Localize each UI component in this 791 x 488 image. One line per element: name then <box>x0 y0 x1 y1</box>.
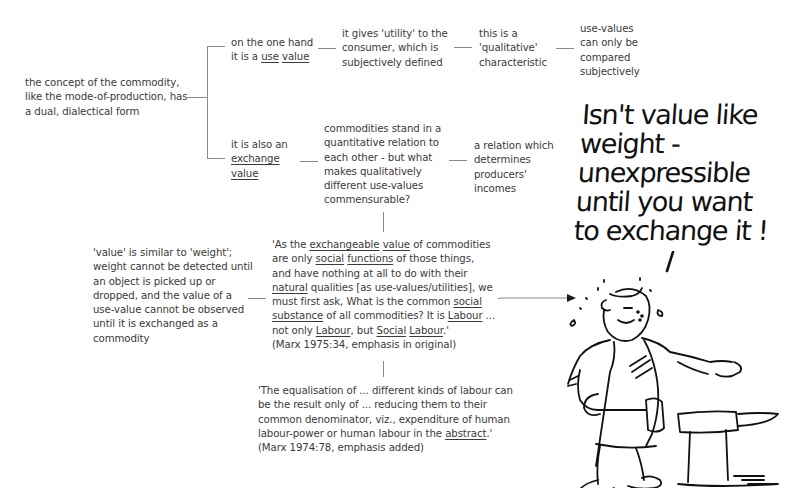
emphasised-term: Labour <box>316 325 351 336</box>
marx-quote-1-text: 'As the exchangeable value of commoditie… <box>272 238 496 338</box>
quantitative-text: commodities stand in a quantitative rela… <box>324 122 452 208</box>
incomes-node: a relation which determines producers' i… <box>474 139 556 196</box>
compared-text: use-values can only be compared subjecti… <box>580 22 650 79</box>
emphasised-term: substance <box>272 310 323 321</box>
exchange-value-node: it is also an exchange value <box>231 138 301 181</box>
quote-segment: .' <box>443 325 449 336</box>
incomes-text: a relation which determines producers' i… <box>474 139 556 196</box>
connector-branch-vertical <box>207 46 208 158</box>
weight-analogy-text: 'value' is similar to 'weight'; weight c… <box>93 246 255 346</box>
connector-quantitative-to-incomes <box>449 160 467 161</box>
quote-segment: of all commodities? It is <box>323 310 448 321</box>
emphasised-term: exchangeable <box>309 239 379 250</box>
emphasised-term: Labour <box>448 310 483 321</box>
use-value-term-use: use <box>261 51 279 62</box>
marx-quote-1-citation: (Marx 1975:34, emphasis in original) <box>272 338 496 352</box>
connector-quote1-to-quote2 <box>383 361 384 377</box>
exchange-value-prefix: it is also an <box>231 138 301 152</box>
blacksmith-cartoon-icon <box>558 270 788 488</box>
connector-qualitative-to-compared <box>556 48 574 49</box>
utility-text: it gives 'utility' to the consumer, whic… <box>342 27 460 70</box>
emphasised-term: natural <box>272 282 308 293</box>
connector-quantitative-to-quote1 <box>383 212 384 232</box>
connector-utility-to-qualitative <box>454 47 472 48</box>
connector-weight-to-quote1 <box>248 298 266 299</box>
connector-root <box>188 97 208 98</box>
emphasised-term: social <box>316 253 344 264</box>
marx-quote-2-citation: (Marx 1974:78, emphasis added) <box>258 441 520 455</box>
exchange-value-term-exchange: exchange <box>231 153 280 164</box>
speech-line: to exchange it ! <box>573 216 785 245</box>
utility-node: it gives 'utility' to the consumer, whic… <box>342 27 460 70</box>
marx-quote-2-emphasis: abstract <box>445 428 486 439</box>
quote-segment: , but <box>350 325 376 336</box>
emphasised-term: value <box>383 239 410 250</box>
marx-quote-2-close: .' <box>486 428 492 439</box>
marx-quote-1: 'As the exchangeable value of commoditie… <box>272 238 496 352</box>
weight-analogy-node: 'value' is similar to 'weight'; weight c… <box>93 246 255 346</box>
root-concept-node: the concept of the commodity, like the m… <box>25 76 195 119</box>
emphasised-term: Social <box>377 325 407 336</box>
marx-quote-2: 'The equalisation of ... different kinds… <box>258 384 520 455</box>
connector-to-use-value <box>207 46 225 47</box>
use-value-term-value: value <box>282 51 309 62</box>
connector-exchange-to-quantitative <box>300 161 318 162</box>
use-value-node: on the one hand it is a use value <box>231 36 321 65</box>
emphasised-term: social <box>453 296 481 307</box>
speech-line: until you want <box>575 187 787 216</box>
qualitative-text: this is a 'qualitative' characteristic <box>479 27 554 70</box>
connector-use-to-utility <box>318 48 336 49</box>
compared-node: use-values can only be compared subjecti… <box>580 22 650 79</box>
speech-line: unexpressible <box>577 158 789 187</box>
speech-line: weight - <box>579 129 791 158</box>
quote-segment: 'As the <box>272 239 309 250</box>
root-concept-text: the concept of the commodity, like the m… <box>25 76 195 119</box>
emphasised-term: functions <box>347 253 393 264</box>
connector-to-exchange-value <box>207 158 225 159</box>
speech-text: Isn't value like weight - unexpressible … <box>573 100 791 245</box>
speech-line: Isn't value like <box>581 100 791 129</box>
quantitative-node: commodities stand in a quantitative rela… <box>324 122 452 208</box>
exchange-value-term-value: value <box>231 168 258 179</box>
qualitative-node: this is a 'qualitative' characteristic <box>479 27 554 70</box>
emphasised-term: Labour <box>409 325 443 336</box>
